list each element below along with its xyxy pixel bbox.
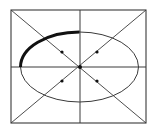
- point-marker: [60, 79, 63, 82]
- bold-arc: [21, 32, 80, 67]
- point-marker: [60, 50, 63, 53]
- point-marker: [95, 79, 98, 82]
- ellipse-diagram: [0, 0, 152, 127]
- point-marker: [78, 65, 82, 69]
- point-marker: [95, 50, 98, 53]
